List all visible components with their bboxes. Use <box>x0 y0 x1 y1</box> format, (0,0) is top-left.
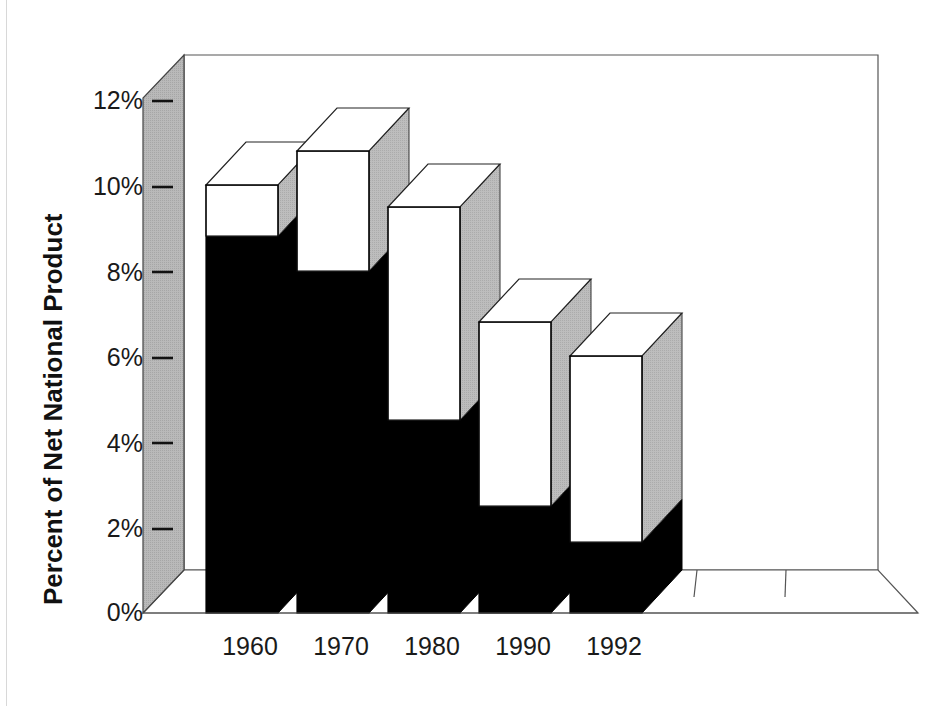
y-tick-label-4: 4% <box>58 429 143 458</box>
y-tick-label-0: 0% <box>58 598 143 627</box>
chart-figure: Percent of Net National Product 12% 10% … <box>0 0 929 706</box>
y-tick-label-8: 8% <box>58 258 143 287</box>
x-tick-label-1992: 1992 <box>559 632 669 661</box>
y-tick-label-2: 2% <box>58 514 143 543</box>
y-tick-label-12: 12% <box>58 86 143 115</box>
y-tick-label-6: 6% <box>58 343 143 372</box>
y-tick-label-10: 10% <box>58 172 143 201</box>
bar-group-1992 <box>570 313 682 613</box>
